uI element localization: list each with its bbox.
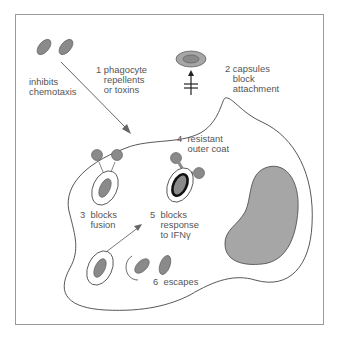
- arrowhead-icon: [188, 70, 194, 76]
- phagocyte-evasion-diagram: [0, 0, 340, 340]
- bacterium-icon: [56, 37, 75, 57]
- label-escapes: 6 escapes: [153, 277, 198, 287]
- label-blocks-fusion: 3 blocks fusion: [80, 210, 117, 230]
- lysosome-icon: [92, 150, 103, 161]
- lysosome-icon: [112, 150, 123, 161]
- bacterium-icon: [34, 37, 53, 57]
- label-inhibits-chemotaxis: inhibits chemotaxis: [29, 77, 76, 97]
- label-capsules: 2 capsules block attachment: [225, 64, 279, 94]
- bacterium-icon: [183, 55, 199, 63]
- label-blocks-ifn: 5 blocks response to IFNγ: [150, 210, 199, 240]
- label-resistant-outer-coat: 4 resistant outer coat: [177, 134, 229, 154]
- label-phagocyte-repellents: 1 phagocyte repellents or toxins: [96, 65, 147, 95]
